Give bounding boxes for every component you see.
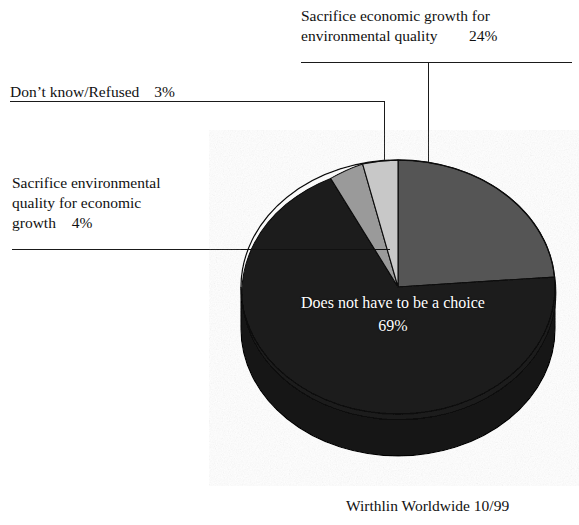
pie-chart-figure: Sacrifice economic growth for environmen… — [0, 0, 579, 525]
pie-slice-label-does-not-have-to-be-a-choice: Does not have to be a choice 69% — [248, 291, 538, 337]
source-credit: Wirthlin Worldwide 10/99 — [346, 497, 509, 515]
pie-slice-sacrifice-environmental-quality — [331, 164, 398, 287]
slice-label-percent: 69% — [248, 314, 538, 337]
callout-environmental-quality-leader-line — [241, 249, 390, 250]
pie-top-rim — [241, 160, 555, 414]
callout-environmental-quality-line2: quality for economic — [12, 193, 160, 213]
callout-economic-growth-percent: 24% — [469, 26, 497, 46]
callout-dont-know-label: Don’t know/Refused — [10, 83, 139, 100]
callout-sacrifice-economic-growth: Sacrifice economic growth for environmen… — [301, 6, 490, 46]
callout-economic-growth-line1: Sacrifice economic growth for — [301, 6, 490, 26]
slice-label-line1: Does not have to be a choice — [248, 291, 538, 314]
callout-economic-growth-rule — [301, 62, 572, 63]
pie-svg — [0, 0, 579, 525]
callout-environmental-quality-percent: 4% — [72, 213, 93, 233]
callout-dont-know-percent: 3% — [154, 82, 175, 102]
callout-environmental-quality-line1: Sacrifice environmental — [12, 173, 160, 193]
callout-economic-growth-line2: environmental quality — [301, 27, 437, 44]
callout-sacrifice-environmental-quality: Sacrifice environmental quality for econ… — [12, 173, 160, 233]
pie-slice-sacrifice-economic-growth — [398, 160, 555, 287]
callout-dont-know-refused: Don’t know/Refused 3% — [10, 82, 175, 102]
callout-economic-growth-leader-line — [428, 62, 429, 205]
pie-slice-dont-know-refused — [363, 160, 398, 287]
pie-graphic — [0, 0, 579, 525]
callout-dont-know-leader-line — [384, 101, 385, 199]
callout-environmental-quality-line3: growth — [12, 214, 56, 231]
callout-dont-know-rule — [10, 101, 385, 102]
